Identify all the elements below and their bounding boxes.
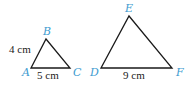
- diagram-svg: A B C 4 cm 5 cm D E F 9 cm: [0, 0, 190, 86]
- vertex-label-a: A: [21, 66, 30, 79]
- measurement-ab: 4 cm: [9, 43, 31, 55]
- vertex-label-b: B: [42, 25, 51, 38]
- triangle-abc: [31, 39, 70, 68]
- vertex-label-f: F: [175, 66, 184, 79]
- measurement-df: 9 cm: [123, 69, 145, 81]
- vertex-label-e: E: [124, 2, 133, 15]
- triangle-def: [101, 16, 172, 68]
- vertex-label-c: C: [73, 66, 82, 79]
- vertex-label-d: D: [89, 66, 99, 79]
- similar-triangles-diagram: A B C 4 cm 5 cm D E F 9 cm: [0, 0, 190, 86]
- measurement-ac: 5 cm: [37, 69, 59, 81]
